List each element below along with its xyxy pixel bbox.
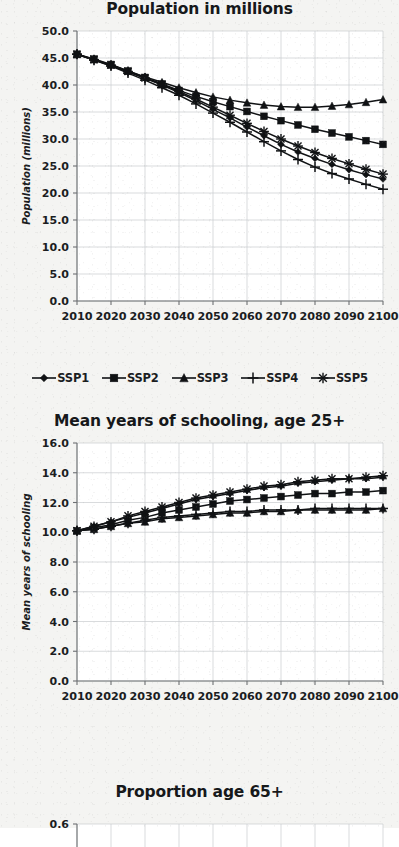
data-point-SSP5	[225, 110, 235, 120]
legend-label-ssp3: SSP3	[197, 371, 229, 385]
data-point-SSP5	[208, 490, 218, 500]
chart-panel-schooling: Mean years of schooling, age 25+ 0.02.04…	[0, 412, 399, 749]
legend-label-ssp1: SSP1	[57, 371, 89, 385]
x-tick-label: 2060	[231, 690, 262, 703]
legend-marker-asterisk-icon	[310, 370, 336, 386]
y-tick-label: 0.0	[50, 295, 70, 308]
x-tick-label: 2100	[367, 310, 398, 323]
data-point-SSP5	[293, 477, 303, 487]
data-point-SSP5	[344, 159, 354, 169]
legend-label-ssp4: SSP4	[266, 371, 298, 385]
data-point-SSP2	[346, 489, 353, 496]
data-point-SSP5	[123, 511, 133, 521]
data-point-SSP2	[244, 496, 251, 503]
y-tick-label: 40.0	[42, 79, 69, 92]
data-point-SSP2	[329, 490, 336, 497]
x-tick-label: 2080	[299, 690, 330, 703]
y-tick-label: 25.0	[42, 160, 69, 173]
y-tick-label: 10.0	[42, 526, 69, 539]
legend-item-ssp5[interactable]: SSP5	[310, 367, 368, 386]
chart-title-proportion-65: Proportion age 65+	[0, 783, 399, 802]
x-tick-label: 2050	[197, 690, 228, 703]
y-tick-label: 4.0	[50, 616, 70, 629]
data-point-SSP5	[276, 480, 286, 490]
data-point-SSP5	[208, 102, 218, 112]
y-tick-label: 8.0	[50, 556, 70, 569]
chart-svg-population: 0.05.010.015.020.025.030.035.040.045.050…	[0, 19, 399, 375]
data-point-SSP2	[312, 126, 319, 133]
legend-marker-plus-icon	[240, 370, 266, 386]
x-tick-label: 2030	[129, 310, 160, 323]
legend-marker-square	[110, 374, 118, 382]
data-point-SSP5	[106, 60, 116, 70]
y-axis-label: Mean years of schooling	[21, 493, 32, 630]
y-tick-label: 15.0	[42, 214, 69, 227]
y-axis-label: Population (millions)	[21, 107, 32, 225]
data-point-SSP2	[346, 133, 353, 140]
chart-title-schooling: Mean years of schooling, age 25+	[0, 412, 399, 431]
y-tick-label: 12.0	[42, 497, 69, 510]
y-tick-label: 45.0	[42, 52, 69, 65]
data-point-SSP2	[295, 492, 302, 499]
data-point-SSP5	[72, 49, 82, 59]
x-tick-label: 2040	[163, 310, 194, 323]
x-tick-label: 2010	[61, 690, 92, 703]
y-tick-label: 50.0	[42, 25, 69, 38]
x-tick-label: 2070	[265, 310, 296, 323]
data-point-SSP5	[310, 475, 320, 485]
data-point-SSP5	[140, 73, 150, 83]
legend-item-ssp3[interactable]: SSP3	[171, 367, 229, 386]
chart-panel-proportion-65: Proportion age 65+ 0.6	[0, 783, 399, 847]
x-tick-label: 2090	[333, 310, 364, 323]
data-point-SSP5	[191, 493, 201, 503]
data-point-SSP5	[106, 517, 116, 527]
data-point-SSP2	[380, 141, 387, 148]
x-tick-label: 2010	[61, 310, 92, 323]
data-point-SSP5	[157, 80, 167, 90]
data-point-SSP2	[261, 495, 268, 502]
data-point-SSP5	[293, 141, 303, 151]
data-point-SSP2	[227, 103, 234, 110]
data-point-SSP5	[361, 472, 371, 482]
data-point-SSP2	[244, 108, 251, 115]
data-point-SSP5	[242, 118, 252, 128]
data-point-SSP5	[344, 474, 354, 484]
legend-marker-diamond-icon	[31, 370, 57, 386]
data-point-SSP2	[329, 130, 336, 137]
data-point-SSP5	[361, 164, 371, 174]
y-tick-label: 16.0	[42, 437, 69, 450]
data-point-SSP5	[225, 487, 235, 497]
legend-item-ssp2[interactable]: SSP2	[101, 367, 159, 386]
x-tick-label: 2100	[367, 690, 398, 703]
y-tick-label: 0.0	[50, 675, 70, 688]
data-point-SSP5	[276, 134, 286, 144]
data-point-SSP5	[157, 502, 167, 512]
chart-panel-population: Population in millions 0.05.010.015.020.…	[0, 0, 399, 375]
data-point-SSP5	[191, 94, 201, 104]
data-point-SSP2	[193, 504, 200, 511]
chart-svg-proportion-65: 0.6	[0, 802, 399, 847]
y-tick-label: 0.6	[50, 818, 70, 831]
x-tick-label: 2040	[163, 690, 194, 703]
data-point-SSP5	[174, 498, 184, 508]
legend-item-ssp1[interactable]: SSP1	[31, 367, 89, 386]
ssp-scenario-legend: SSP1SSP2SSP3SSP4SSP5	[0, 366, 399, 386]
data-point-SSP5	[310, 148, 320, 158]
y-tick-label: 35.0	[42, 106, 69, 119]
data-point-SSP2	[227, 498, 234, 505]
legend-item-ssp4[interactable]: SSP4	[240, 367, 298, 386]
y-tick-label: 20.0	[42, 187, 69, 200]
legend-marker-square-icon	[101, 370, 127, 386]
data-point-SSP5	[259, 127, 269, 137]
y-tick-label: 14.0	[42, 467, 69, 480]
chart-title-population: Population in millions	[0, 0, 399, 19]
y-tick-label: 30.0	[42, 133, 69, 146]
data-point-SSP2	[278, 493, 285, 500]
data-point-SSP5	[259, 481, 269, 491]
legend-marker-plus	[248, 372, 259, 383]
data-point-SSP5	[327, 474, 337, 484]
data-point-SSP5	[378, 169, 388, 179]
y-tick-label: 10.0	[42, 241, 69, 254]
data-point-SSP5	[242, 484, 252, 494]
